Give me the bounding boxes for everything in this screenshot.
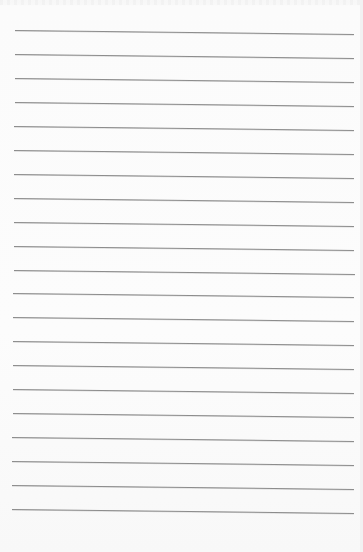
ruled-line	[13, 365, 354, 370]
ruled-line	[13, 413, 354, 418]
ruled-line	[13, 293, 354, 298]
paper-top-edge	[0, 0, 363, 5]
ruled-line	[14, 174, 354, 179]
ruled-line	[14, 198, 354, 203]
ruled-line	[12, 509, 354, 514]
ruled-line	[12, 461, 354, 466]
ruled-line	[15, 102, 354, 107]
ruled-line	[12, 437, 354, 442]
ruled-line	[14, 246, 354, 251]
ruled-line	[13, 270, 354, 275]
ruled-line	[15, 54, 354, 59]
ruled-line	[13, 341, 354, 346]
ruled-line	[15, 30, 354, 35]
ruled-line	[14, 222, 354, 227]
ruled-line	[14, 126, 354, 131]
ruled-line	[15, 78, 354, 83]
ruled-line	[14, 150, 354, 155]
lined-paper-sheet	[0, 0, 363, 552]
ruled-line	[13, 317, 354, 322]
ruled-line	[12, 485, 354, 490]
ruled-line	[13, 389, 354, 394]
